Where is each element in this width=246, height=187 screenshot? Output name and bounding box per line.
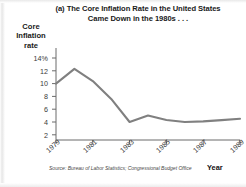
source-note: Source: Bureau of Labor Statistics; Cong… <box>49 165 191 171</box>
y-axis-tick-label: 10 <box>26 79 48 88</box>
x-axis-ticks <box>56 140 240 144</box>
y-axis-ticks <box>52 58 56 135</box>
y-axis-tick-label: 6 <box>26 105 48 114</box>
x-axis-title: Year <box>207 163 223 172</box>
y-axis-tick-label: 12 <box>26 67 48 76</box>
y-axis-tick-label: 4 <box>26 118 48 127</box>
y-axis-tick-label: 2 <box>26 131 48 140</box>
y-axis-tick-label: 8 <box>26 92 48 101</box>
y-axis-tick-label: 14% <box>26 54 48 63</box>
figure-panel: (a) The Core Inflation Rate in the Unite… <box>0 0 246 187</box>
data-line-core-inflation-rate <box>56 69 240 122</box>
